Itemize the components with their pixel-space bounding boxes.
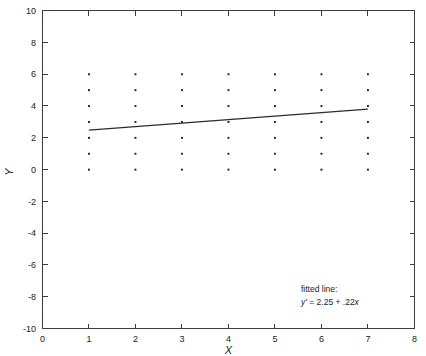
data-point [367, 73, 369, 75]
data-point [135, 105, 137, 107]
data-point [135, 89, 137, 91]
data-point [321, 105, 323, 107]
data-point [135, 73, 137, 75]
x-tick-label: 1 [86, 334, 91, 344]
data-point [367, 137, 369, 139]
y-tick-label: 8 [31, 38, 36, 48]
data-point [367, 153, 369, 155]
data-point [228, 153, 230, 155]
data-point [181, 89, 183, 91]
x-axis-title: X [224, 344, 233, 356]
x-tick-label: 6 [319, 334, 324, 344]
x-tick-label: 0 [40, 334, 45, 344]
data-point [274, 137, 276, 139]
data-point [88, 169, 90, 171]
data-point [88, 121, 90, 123]
data-point [228, 121, 230, 123]
data-point [135, 121, 137, 123]
data-point [88, 73, 90, 75]
data-point [181, 73, 183, 75]
data-point [274, 105, 276, 107]
data-point [274, 89, 276, 91]
data-point [228, 73, 230, 75]
data-point [321, 137, 323, 139]
data-point [135, 169, 137, 171]
data-point [367, 105, 369, 107]
data-point [321, 121, 323, 123]
data-point [88, 137, 90, 139]
y-tick-label: -8 [28, 292, 36, 302]
data-point [274, 169, 276, 171]
x-tick-label: 8 [412, 334, 417, 344]
data-point [135, 137, 137, 139]
data-point [274, 73, 276, 75]
x-tick-label: 4 [226, 334, 231, 344]
y-tick-label: -2 [28, 197, 36, 207]
y-tick-label: 2 [31, 133, 36, 143]
data-point [228, 105, 230, 107]
data-point [367, 169, 369, 171]
x-tick-label: 5 [272, 334, 277, 344]
data-point [321, 89, 323, 91]
y-tick-label: -6 [28, 260, 36, 270]
data-point [135, 153, 137, 155]
y-tick-labels: 10 8 6 4 2 0 -2 -4 -6 -8 -10 [23, 6, 36, 334]
figure-canvas: 0 1 2 3 4 5 6 7 8 10 8 6 4 2 0 -2 -4 -6 … [0, 0, 426, 356]
y-axis-title: Y [3, 168, 15, 176]
x-tick-labels: 0 1 2 3 4 5 6 7 8 [40, 334, 417, 344]
y-tick-label: 4 [31, 101, 36, 111]
y-tick-label: 6 [31, 69, 36, 79]
annotation-line-2: y' = 2.25 + .22x [300, 297, 360, 307]
data-point [367, 89, 369, 91]
data-point [181, 153, 183, 155]
data-point [321, 73, 323, 75]
annotation-x-symbol: x [354, 297, 360, 307]
data-point [367, 121, 369, 123]
annotation-line-1: fitted line: [301, 284, 337, 294]
x-tick-label: 2 [133, 334, 138, 344]
y-tick-label: -4 [28, 228, 36, 238]
y-tick-label: -10 [23, 324, 36, 334]
data-point [181, 169, 183, 171]
data-point [321, 169, 323, 171]
annotation-equation-body: = 2.25 + .22 [307, 297, 355, 307]
data-point [228, 169, 230, 171]
data-point [228, 137, 230, 139]
data-point [88, 153, 90, 155]
data-point [274, 153, 276, 155]
data-point [88, 105, 90, 107]
x-tick-label: 7 [365, 334, 370, 344]
data-point [181, 137, 183, 139]
data-point [228, 89, 230, 91]
data-point [88, 89, 90, 91]
data-point [181, 105, 183, 107]
y-tick-label: 10 [26, 6, 36, 16]
scatter-plot: 0 1 2 3 4 5 6 7 8 10 8 6 4 2 0 -2 -4 -6 … [0, 0, 426, 356]
x-tick-label: 3 [179, 334, 184, 344]
data-point [274, 121, 276, 123]
data-point [321, 153, 323, 155]
y-tick-label: 0 [31, 165, 36, 175]
